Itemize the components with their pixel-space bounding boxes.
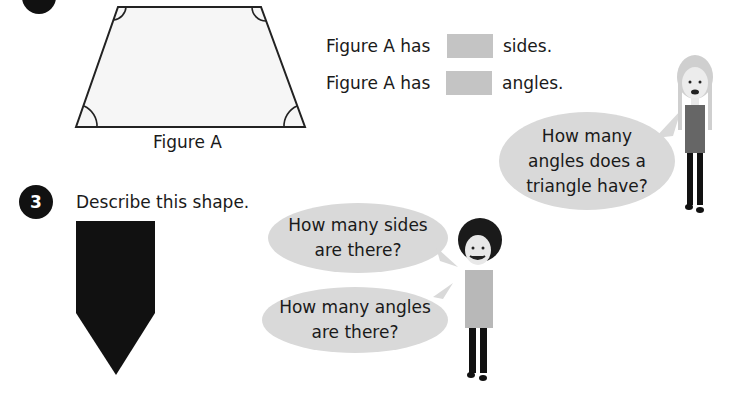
girl-speech-bubble: How many angles does a triangle have?: [499, 112, 675, 210]
question-2-badge: [22, 0, 56, 14]
question-3-badge: 3: [19, 185, 53, 219]
figure-a-label: Figure A: [153, 132, 222, 152]
statement-angles-suffix: angles.: [502, 73, 563, 93]
angles-answer-blank[interactable]: [446, 71, 492, 95]
pentagon-shape: [76, 221, 156, 376]
statement-angles-prefix: Figure A has: [326, 73, 430, 93]
boy-speech-sides-text: How many sides are there?: [283, 213, 433, 263]
boy-speech-bubble-angles: How many angles are there?: [262, 287, 448, 353]
figure-a-trapezoid: [70, 0, 315, 135]
girl-speech-text: How many angles does a triangle have?: [522, 124, 652, 199]
boy-character-illustration: [452, 218, 512, 383]
question-3-prompt: Describe this shape.: [76, 192, 249, 212]
boy-speech-angles-text: How many angles are there?: [275, 295, 435, 345]
sides-answer-blank[interactable]: [447, 34, 493, 58]
girl-character-illustration: [673, 50, 723, 220]
boy-speech-bubble-sides: How many sides are there?: [268, 203, 448, 273]
statement-sides-suffix: sides.: [503, 36, 552, 56]
statement-sides-prefix: Figure A has: [326, 36, 430, 56]
